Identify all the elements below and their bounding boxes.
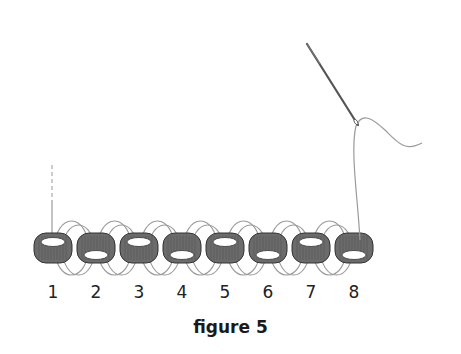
bead-number: 3 [134, 282, 145, 302]
bead-number: 1 [48, 282, 59, 302]
bead-6 [249, 233, 287, 263]
bead-numbers: 12345678 [48, 282, 360, 302]
beads [34, 233, 373, 263]
bead-4 [163, 233, 201, 263]
beading-diagram: 12345678 [0, 0, 461, 354]
bead-number: 6 [263, 282, 274, 302]
bead-number: 8 [349, 282, 360, 302]
bead-5 [206, 233, 244, 263]
working-thread [354, 118, 422, 240]
figure-caption: figure 5 [0, 317, 461, 337]
bead-7 [292, 233, 330, 263]
bead-3 [120, 233, 158, 263]
bead-number: 2 [91, 282, 102, 302]
bead-number: 7 [306, 282, 317, 302]
bead-2 [77, 233, 115, 263]
bead-8 [335, 233, 373, 263]
bead-number: 4 [177, 282, 188, 302]
needle-icon [307, 44, 359, 125]
bead-number: 5 [220, 282, 231, 302]
bead-1 [34, 233, 72, 263]
